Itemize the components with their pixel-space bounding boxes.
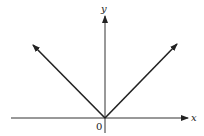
x-axis-label: x (191, 112, 197, 123)
origin-label: 0 (96, 121, 102, 132)
absolute-value-graph: y x 0 (0, 0, 204, 136)
left-ray (33, 45, 105, 118)
y-axis-label: y (100, 3, 107, 14)
right-ray (105, 44, 177, 118)
